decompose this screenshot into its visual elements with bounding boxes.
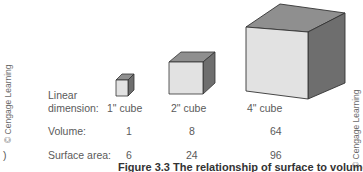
- cube-2-name: 2" cube: [171, 102, 206, 114]
- cube-2-surface: 24: [186, 149, 198, 161]
- cube-3-volume: 64: [270, 125, 282, 137]
- linear-label-line2: dimension:: [48, 102, 99, 114]
- cubes-illustration: [0, 0, 363, 172]
- credit-left: © Cengage Learning: [3, 64, 13, 143]
- cube-1-name: 1" cube: [107, 102, 142, 114]
- cube-4-inch: [246, 4, 345, 99]
- linear-label-line1: Linear: [48, 89, 77, 101]
- cube-1-inch: [116, 74, 134, 96]
- credit-right: © Cengage Learning: [351, 89, 361, 168]
- figure-caption: Figure 3.3 The relationship of surface t…: [118, 161, 363, 172]
- surface-label: Surface area:: [48, 149, 111, 161]
- cube-2-volume: 8: [189, 125, 195, 137]
- volume-label: Volume:: [48, 125, 86, 137]
- cube-1-volume: 1: [126, 125, 132, 137]
- cube-3-surface: 96: [270, 149, 282, 161]
- cube-1-surface: 6: [126, 149, 132, 161]
- left-edge-fragment: ): [3, 149, 7, 161]
- cube-3-name: 4" cube: [247, 102, 282, 114]
- cube-2-inch: [169, 52, 215, 94]
